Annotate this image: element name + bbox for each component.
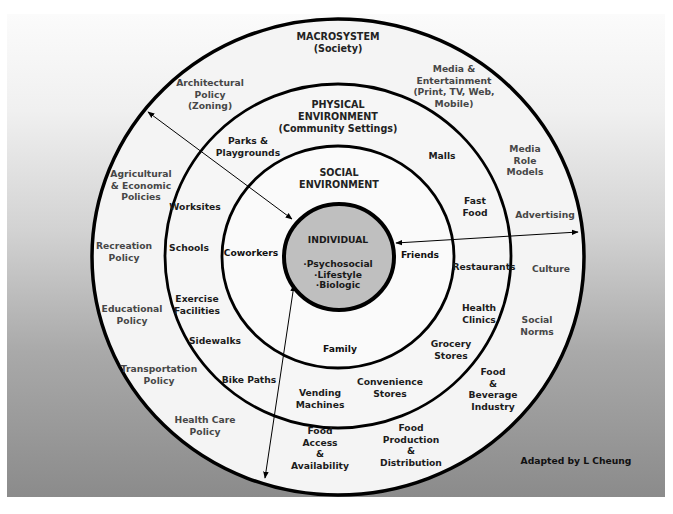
physical-environment-title: PHYSICAL ENVIRONMENT (Community Settings… bbox=[279, 99, 398, 135]
line: Worksites bbox=[169, 201, 220, 213]
line: Beverage bbox=[469, 389, 518, 401]
line: Entertainment bbox=[413, 74, 494, 86]
label-convenience-stores: Convenience Stores bbox=[357, 376, 423, 399]
label-friends: Friends bbox=[401, 249, 439, 261]
label-culture: Culture bbox=[532, 263, 570, 275]
line: Vending bbox=[296, 387, 345, 399]
factor-biologic: ·Biologic bbox=[303, 280, 373, 291]
line: Architectural bbox=[176, 77, 244, 89]
line: Malls bbox=[428, 150, 455, 162]
line: & Economic bbox=[110, 179, 171, 191]
physical-title-line2: ENVIRONMENT bbox=[279, 111, 398, 123]
line: Playgrounds bbox=[216, 147, 280, 159]
line: Health Care bbox=[174, 414, 235, 426]
label-coworkers: Coworkers bbox=[224, 247, 278, 259]
label-grocery-stores: Grocery Stores bbox=[431, 338, 472, 361]
social-environment-title: SOCIAL ENVIRONMENT bbox=[299, 167, 379, 191]
line: Norms bbox=[520, 326, 554, 338]
line: Parks & bbox=[216, 135, 280, 147]
individual-core bbox=[284, 204, 394, 310]
line: Culture bbox=[532, 263, 570, 275]
label-restaurants: Restaurants bbox=[452, 261, 515, 273]
label-health-clinics: Health Clinics bbox=[462, 302, 496, 325]
individual-factors: ·Psychosocial ·Lifestyle ·Biologic bbox=[303, 259, 373, 291]
label-food-beverage-industry: Food & Beverage Industry bbox=[469, 366, 518, 412]
line: Transportation bbox=[121, 363, 197, 375]
line: Role bbox=[507, 154, 544, 166]
label-media-entertainment: Media & Entertainment (Print, TV, Web, M… bbox=[413, 63, 494, 109]
label-parks-playgrounds: Parks & Playgrounds bbox=[216, 135, 280, 158]
line: Policy bbox=[102, 315, 163, 327]
label-worksites: Worksites bbox=[169, 201, 220, 213]
line: Food bbox=[469, 366, 518, 378]
line: Recreation bbox=[96, 240, 152, 252]
individual-title: INDIVIDUAL bbox=[308, 234, 368, 246]
macrosystem-title: MACROSYSTEM (Society) bbox=[297, 31, 380, 55]
line: Mobile) bbox=[413, 98, 494, 110]
physical-title-line1: PHYSICAL bbox=[279, 99, 398, 111]
credit-text: Adapted by L Cheung bbox=[521, 455, 632, 467]
individual-title-text: INDIVIDUAL bbox=[308, 234, 368, 246]
line: Policy bbox=[121, 375, 197, 387]
social-title-line1: SOCIAL bbox=[299, 167, 379, 179]
label-health-care-policy: Health Care Policy bbox=[174, 414, 235, 437]
line: Food bbox=[462, 207, 487, 219]
credit-label: Adapted by L Cheung bbox=[521, 455, 632, 467]
factor-psychosocial: ·Psychosocial bbox=[303, 259, 373, 270]
line: Agricultural bbox=[110, 168, 171, 180]
line: Stores bbox=[357, 388, 423, 400]
figure-caption-faint bbox=[60, 500, 280, 510]
label-bike-paths: Bike Paths bbox=[222, 374, 277, 386]
line: Food bbox=[291, 425, 349, 437]
label-media-role-models: Media Role Models bbox=[507, 143, 544, 178]
label-transportation-policy: Transportation Policy bbox=[121, 363, 197, 386]
label-recreation-policy: Recreation Policy bbox=[96, 240, 152, 263]
physical-subtitle: (Community Settings) bbox=[279, 123, 398, 135]
macrosystem-subtitle: (Society) bbox=[297, 43, 380, 55]
line: Clinics bbox=[462, 314, 496, 326]
line: (Print, TV, Web, bbox=[413, 86, 494, 98]
label-sidewalks: Sidewalks bbox=[189, 335, 241, 347]
line: Models bbox=[507, 166, 544, 178]
line: (Zoning) bbox=[176, 100, 244, 112]
line: & bbox=[469, 377, 518, 389]
line: Policy bbox=[96, 252, 152, 264]
label-social-norms: Social Norms bbox=[520, 314, 554, 337]
line: Friends bbox=[401, 249, 439, 261]
label-agricultural-economic-policies: Agricultural & Economic Policies bbox=[110, 168, 171, 203]
line: Bike Paths bbox=[222, 374, 277, 386]
line: Policy bbox=[174, 426, 235, 438]
macrosystem-title-text: MACROSYSTEM bbox=[297, 31, 380, 43]
label-architectural-policy: Architectural Policy (Zoning) bbox=[176, 77, 244, 112]
label-schools: Schools bbox=[169, 242, 209, 254]
line: Production bbox=[380, 433, 442, 445]
label-advertising: Advertising bbox=[515, 209, 575, 221]
line: Restaurants bbox=[452, 261, 515, 273]
line: Sidewalks bbox=[189, 335, 241, 347]
label-food-access-availability: Food Access & Availability bbox=[291, 425, 349, 471]
line: Facilities bbox=[174, 305, 220, 317]
line: Exercise bbox=[174, 293, 220, 305]
line: Grocery bbox=[431, 338, 472, 350]
label-exercise-facilities: Exercise Facilities bbox=[174, 293, 220, 316]
line: Fast bbox=[462, 195, 487, 207]
line: Family bbox=[323, 343, 357, 355]
line: Availability bbox=[291, 460, 349, 472]
line: Media bbox=[507, 143, 544, 155]
label-fast-food: Fast Food bbox=[462, 195, 487, 218]
line: Access bbox=[291, 436, 349, 448]
line: Health bbox=[462, 302, 496, 314]
label-vending-machines: Vending Machines bbox=[296, 387, 345, 410]
line: Policy bbox=[176, 88, 244, 100]
line: Convenience bbox=[357, 376, 423, 388]
line: Educational bbox=[102, 303, 163, 315]
line: Policies bbox=[110, 191, 171, 203]
line: Stores bbox=[431, 350, 472, 362]
line: Distribution bbox=[380, 457, 442, 469]
line: Social bbox=[520, 314, 554, 326]
line: & bbox=[291, 448, 349, 460]
label-malls: Malls bbox=[428, 150, 455, 162]
line: Industry bbox=[469, 401, 518, 413]
label-food-production-distribution: Food Production & Distribution bbox=[380, 422, 442, 468]
line: Coworkers bbox=[224, 247, 278, 259]
